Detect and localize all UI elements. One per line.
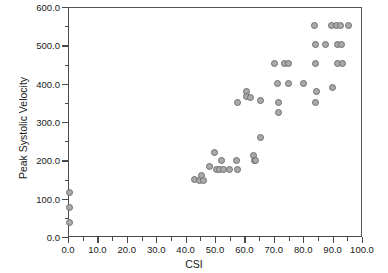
y-axis-major-tick	[62, 122, 68, 123]
data-point	[252, 157, 259, 164]
x-axis-minor-tick	[171, 237, 172, 241]
x-axis-tick-label: 10.0	[88, 244, 107, 255]
x-axis-minor-tick	[230, 237, 231, 241]
data-point	[339, 60, 346, 67]
y-axis-minor-tick	[65, 26, 69, 27]
y-axis-minor-tick	[65, 103, 69, 104]
data-point	[218, 157, 225, 164]
data-point	[312, 99, 319, 106]
data-point	[66, 189, 73, 196]
x-axis-major-tick	[362, 237, 363, 243]
data-point	[226, 166, 233, 173]
x-axis-title: CSI	[0, 258, 388, 270]
x-axis-tick-label: 90.0	[323, 244, 342, 255]
data-point	[337, 22, 344, 29]
y-axis-major-tick	[62, 45, 68, 46]
data-point	[311, 22, 318, 29]
x-axis-tick-label: 20.0	[118, 244, 137, 255]
y-axis-tick-label: 0.0	[47, 232, 60, 243]
y-axis-title: Peak Systolic Velocity	[17, 43, 29, 213]
y-axis-minor-tick	[65, 180, 69, 181]
x-axis-major-tick	[68, 237, 69, 243]
x-axis-major-tick	[244, 237, 245, 243]
data-point	[274, 80, 281, 87]
x-axis-tick-label: 80.0	[294, 244, 313, 255]
x-axis-major-tick	[186, 237, 187, 243]
x-axis-major-tick	[333, 237, 334, 243]
y-axis-minor-tick	[65, 218, 69, 219]
data-point	[312, 60, 319, 67]
x-axis-tick-label: 70.0	[265, 244, 284, 255]
y-axis-major-tick	[62, 199, 68, 200]
data-point	[275, 99, 282, 106]
x-axis-major-tick	[274, 237, 275, 243]
x-axis-minor-tick	[289, 237, 290, 241]
y-axis-tick-label: 200.0	[36, 155, 60, 166]
x-axis-tick-label: 50.0	[206, 244, 225, 255]
data-point	[66, 219, 73, 226]
x-axis-major-tick	[156, 237, 157, 243]
data-point	[257, 134, 264, 141]
data-point	[313, 88, 320, 95]
data-point	[322, 41, 329, 48]
x-axis-tick-label: 0.0	[61, 244, 74, 255]
data-point	[345, 22, 352, 29]
plot-area	[68, 7, 362, 237]
data-point	[234, 99, 241, 106]
data-point	[271, 60, 278, 67]
data-point	[285, 80, 292, 87]
x-axis-minor-tick	[347, 237, 348, 241]
x-axis-minor-tick	[200, 237, 201, 241]
data-points-layer	[69, 8, 361, 236]
x-axis-major-tick	[97, 237, 98, 243]
y-axis-major-tick	[62, 160, 68, 161]
y-axis-tick-label: 100.0	[36, 193, 60, 204]
data-point	[300, 80, 307, 87]
x-axis-minor-tick	[318, 237, 319, 241]
x-axis-tick-label: 60.0	[235, 244, 254, 255]
y-axis-tick-label: 500.0	[36, 40, 60, 51]
x-axis-minor-tick	[142, 237, 143, 241]
y-axis-major-tick	[62, 7, 68, 8]
y-axis-minor-tick	[65, 65, 69, 66]
y-axis-tick-label: 400.0	[36, 78, 60, 89]
data-point	[66, 204, 73, 211]
data-point	[211, 149, 218, 156]
y-axis-major-tick	[62, 237, 68, 238]
x-axis-major-tick	[127, 237, 128, 243]
x-axis-major-tick	[303, 237, 304, 243]
x-axis-tick-label: 100.0	[350, 244, 374, 255]
x-axis-minor-tick	[112, 237, 113, 241]
data-point	[233, 157, 240, 164]
x-axis-tick-label: 30.0	[147, 244, 166, 255]
data-point	[275, 109, 282, 116]
y-axis-major-tick	[62, 84, 68, 85]
y-axis-tick-label: 600.0	[36, 2, 60, 13]
x-axis-minor-tick	[259, 237, 260, 241]
data-point	[329, 84, 336, 91]
x-axis-minor-tick	[83, 237, 84, 241]
x-axis-major-tick	[215, 237, 216, 243]
scatter-plot-figure: 0.010.020.030.040.050.060.070.080.090.01…	[0, 0, 388, 273]
x-axis-tick-label: 40.0	[176, 244, 195, 255]
data-point	[338, 41, 345, 48]
y-axis-minor-tick	[65, 141, 69, 142]
data-point	[200, 177, 207, 184]
data-point	[285, 60, 292, 67]
data-point	[247, 94, 254, 101]
data-point	[257, 97, 264, 104]
y-axis-tick-label: 300.0	[36, 117, 60, 128]
data-point	[312, 41, 319, 48]
data-point	[234, 166, 241, 173]
